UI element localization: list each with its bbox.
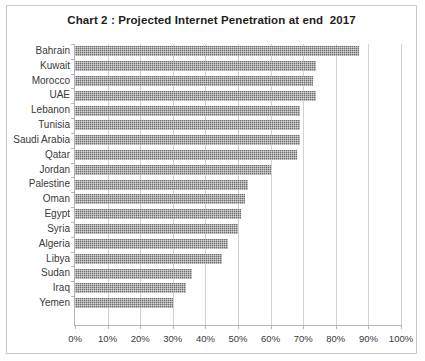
bar: [75, 283, 186, 293]
category-label: Lebanon: [31, 102, 70, 117]
category-label: UAE: [49, 87, 70, 102]
category-label: Bahrain: [36, 43, 70, 58]
y-axis-tick: [71, 192, 75, 193]
y-axis-tick: [71, 252, 75, 253]
x-axis-label: 90%: [359, 333, 378, 344]
bar: [75, 254, 222, 264]
category-label: Egypt: [44, 206, 70, 221]
bar: [75, 209, 241, 219]
category-label: Tunisia: [38, 117, 70, 132]
y-axis-tick: [71, 222, 75, 223]
x-axis-tick: [303, 325, 304, 329]
x-axis-tick: [108, 325, 109, 329]
bar-row: Saudi Arabia: [75, 133, 401, 148]
y-axis-tick: [71, 163, 75, 164]
bar: [75, 239, 228, 249]
bar-series: BahrainKuwaitMoroccoUAELebanonTunisiaSau…: [75, 44, 401, 325]
x-axis-tick: [205, 325, 206, 329]
y-axis-tick: [71, 237, 75, 238]
category-label: Saudi Arabia: [13, 132, 70, 147]
y-axis-tick: [71, 133, 75, 134]
bar: [75, 224, 238, 234]
bar-row: Algeria: [75, 237, 401, 252]
bar: [75, 180, 248, 190]
bar: [75, 298, 173, 308]
y-axis-tick: [71, 266, 75, 267]
bar-row: Yemen: [75, 296, 401, 311]
bar: [75, 61, 316, 71]
category-label: Jordan: [39, 162, 70, 177]
bar-row: UAE: [75, 88, 401, 103]
chart-title: Chart 2 : Projected Internet Penetration…: [7, 14, 416, 26]
bar-row: Lebanon: [75, 103, 401, 118]
category-label: Iraq: [53, 280, 70, 295]
bar-row: Oman: [75, 192, 401, 207]
x-axis-label: 30%: [163, 333, 182, 344]
x-axis-label: 100%: [389, 333, 413, 344]
x-axis-label: 40%: [196, 333, 215, 344]
category-label: Oman: [43, 191, 70, 206]
x-axis-tick: [368, 325, 369, 329]
category-label: Algeria: [39, 236, 70, 251]
bar-row: Qatar: [75, 148, 401, 163]
category-label: Libya: [46, 251, 70, 266]
x-axis-label: 0%: [68, 333, 82, 344]
x-axis-label: 10%: [98, 333, 117, 344]
category-label: Sudan: [41, 265, 70, 280]
bar-row: Libya: [75, 252, 401, 267]
bar: [75, 91, 316, 101]
y-axis-tick: [71, 74, 75, 75]
y-axis-tick: [71, 148, 75, 149]
x-axis-label: 50%: [228, 333, 247, 344]
category-label: Syria: [47, 221, 70, 236]
y-axis-tick: [71, 59, 75, 60]
bar-row: Egypt: [75, 207, 401, 222]
bar-row: Palestine: [75, 177, 401, 192]
x-axis-tick: [238, 325, 239, 329]
gridline: [401, 44, 402, 325]
chart-container: Chart 2 : Projected Internet Penetration…: [6, 5, 417, 354]
category-label: Kuwait: [40, 58, 70, 73]
bar: [75, 269, 192, 279]
x-axis-tick: [173, 325, 174, 329]
bar-row: Jordan: [75, 163, 401, 178]
bar-row: Tunisia: [75, 118, 401, 133]
bar-row: Syria: [75, 222, 401, 237]
category-label: Qatar: [45, 147, 70, 162]
bar-row: Bahrain: [75, 44, 401, 59]
x-axis-label: 80%: [326, 333, 345, 344]
x-axis-tick: [140, 325, 141, 329]
bar: [75, 120, 300, 130]
bar: [75, 76, 313, 86]
y-axis-tick: [71, 296, 75, 297]
y-axis-tick: [71, 281, 75, 282]
category-label: Yemen: [39, 295, 70, 310]
category-label: Palestine: [29, 176, 70, 191]
bar-row: Morocco: [75, 74, 401, 89]
y-axis-tick: [71, 177, 75, 178]
bar-row: Kuwait: [75, 59, 401, 74]
y-axis-tick: [71, 207, 75, 208]
bar: [75, 194, 245, 204]
y-axis-tick: [71, 88, 75, 89]
axis-spacer-row: [75, 311, 401, 326]
x-axis-tick: [271, 325, 272, 329]
y-axis-tick: [71, 103, 75, 104]
y-axis-tick: [71, 44, 75, 45]
bar-row: Iraq: [75, 281, 401, 296]
category-label: Morocco: [32, 73, 70, 88]
bar-row: Sudan: [75, 266, 401, 281]
plot-area: BahrainKuwaitMoroccoUAELebanonTunisiaSau…: [74, 44, 401, 326]
bar: [75, 106, 300, 116]
bar: [75, 46, 359, 56]
x-axis-label: 60%: [261, 333, 280, 344]
x-axis-tick: [401, 325, 402, 329]
x-axis-label: 20%: [131, 333, 150, 344]
bar: [75, 165, 271, 175]
bar: [75, 135, 300, 145]
bar: [75, 150, 297, 160]
y-axis-tick: [71, 118, 75, 119]
x-axis-label: 70%: [294, 333, 313, 344]
x-axis-tick: [75, 325, 76, 329]
x-axis-tick: [336, 325, 337, 329]
